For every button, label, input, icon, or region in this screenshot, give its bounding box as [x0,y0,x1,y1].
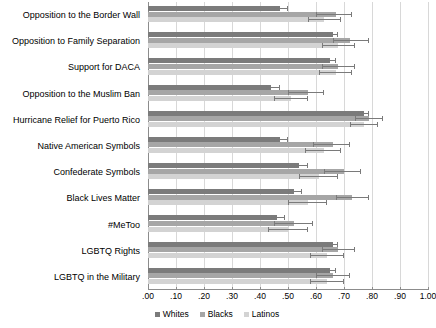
legend-swatch-icon [155,312,160,317]
error-bar [355,116,383,121]
x-axis: .00.10.20.30.40.50.60.70.80.901.00 [148,290,428,304]
error-bar [333,38,369,43]
error-bar [271,215,285,220]
error-bar [288,200,327,205]
bar-group [148,211,428,237]
bar-latinos [148,227,288,232]
error-bar [322,43,356,48]
legend-swatch-icon [200,312,205,317]
bar-whites [148,163,299,168]
x-axis-tick-label: .30 [226,291,238,301]
y-axis-label: Opposition to the Border Wall [0,10,140,20]
x-axis-tick-mark [232,287,233,290]
error-bar [324,169,360,174]
error-bar [324,58,335,63]
error-bar [313,142,349,147]
legend-label: Blacks [208,310,233,319]
bar-blacks [148,221,294,226]
bar-latinos [148,96,291,101]
legend-item[interactable]: Latinos [244,310,279,319]
x-axis-tick-label: .60 [310,291,322,301]
bar-latinos [148,70,336,75]
x-axis-tick-label: .20 [198,291,210,301]
legend-item[interactable]: Blacks [200,310,233,319]
error-bar [274,221,313,226]
bar-blacks [148,273,333,278]
error-bar [319,70,353,75]
bar-blacks [148,142,333,147]
legend-swatch-icon [244,312,249,317]
bar-latinos [148,279,327,284]
y-axis-labels: Opposition to the Border WallOpposition … [0,2,144,290]
bar-latinos [148,122,364,127]
error-bar [299,174,338,179]
bar-latinos [148,174,319,179]
bar-group [148,133,428,159]
bar-whites [148,32,333,37]
bar-whites [148,268,330,273]
y-axis-label: Opposition to Family Separation [0,36,140,46]
bar-group [148,185,428,211]
x-axis-tick-mark [428,287,429,290]
legend-label: Latinos [252,310,279,319]
bar-group [148,2,428,28]
legend-label: Whites [163,310,189,319]
error-bar [310,279,344,284]
error-bar [336,195,370,200]
bar-group [148,28,428,54]
error-bar [324,268,335,273]
x-axis-tick-mark [148,287,149,290]
plot-area [148,2,428,290]
bar-group [148,107,428,133]
x-axis-tick-mark [344,287,345,290]
y-axis-label: Black Lives Matter [0,193,140,203]
error-bar [316,12,352,17]
x-axis-tick-label: .70 [338,291,350,301]
bar-whites [148,189,294,194]
bar-whites [148,111,364,116]
x-axis-tick-mark [176,287,177,290]
bar-whites [148,85,271,90]
y-axis-label: Support for DACA [0,62,140,72]
error-bar [350,122,378,127]
x-axis-tick-mark [288,287,289,290]
y-axis-label: #MeToo [0,220,140,230]
y-axis-label: Hurricane Relief for Puerto Rico [0,115,140,125]
bar-blacks [148,64,338,69]
bar-latinos [148,148,324,153]
bar-latinos [148,17,324,22]
error-bar [358,111,369,116]
error-bar [288,189,302,194]
bar-latinos [148,200,308,205]
bar-blacks [148,38,350,43]
error-bar [266,85,280,90]
x-axis-tick-mark [372,287,373,290]
bar-blacks [148,195,352,200]
y-axis-label: Confederate Symbols [0,167,140,177]
bar-blacks [148,12,336,17]
bar-whites [148,6,280,11]
bar-blacks [148,247,338,252]
x-axis-tick-label: .00 [142,291,154,301]
error-bar [274,6,288,11]
error-bar [316,273,350,278]
bar-whites [148,58,330,63]
error-bar [327,32,338,37]
bar-blacks [148,116,369,121]
bar-blacks [148,169,344,174]
y-axis-label: LGBTQ Rights [0,246,140,256]
x-axis-tick-label: .40 [254,291,266,301]
error-bar [268,227,307,232]
x-axis-tick-label: 1.00 [420,291,436,301]
x-axis-tick-label: .10 [170,291,182,301]
legend-item[interactable]: Whites [155,310,189,319]
chart-legend: WhitesBlacksLatinos [0,310,434,319]
error-bar [322,64,356,69]
error-bar [310,253,344,258]
error-bar [305,148,341,153]
bar-group [148,54,428,80]
bar-latinos [148,43,338,48]
bar-whites [148,215,277,220]
error-bar [288,90,324,95]
